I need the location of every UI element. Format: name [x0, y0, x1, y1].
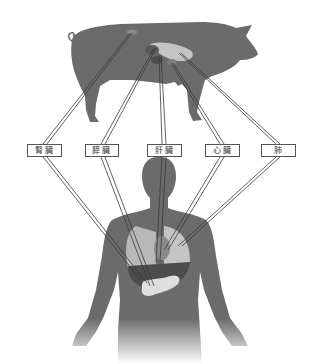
pig-kidney [127, 30, 137, 35]
label-kidney: 腎臓 [27, 144, 62, 157]
pig-heart [145, 45, 159, 55]
label-liver: 肝臓 [147, 144, 182, 157]
label-lung: 肺 [261, 144, 296, 157]
label-pancreas: 膵臓 [85, 144, 119, 157]
pig-human-organ-diagram: 腎臓 膵臓 肝臓 心臓 肺 [0, 0, 315, 364]
pig-silhouette [69, 22, 258, 122]
label-heart: 心臓 [205, 144, 240, 157]
